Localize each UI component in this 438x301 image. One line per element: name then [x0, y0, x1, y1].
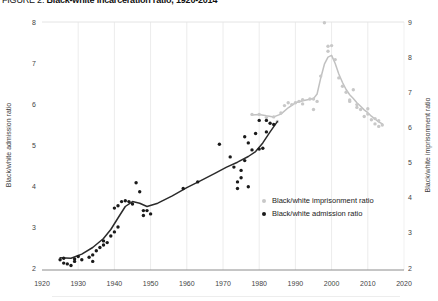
admission-data-point — [116, 204, 119, 207]
legend-label-admission: Black/white admission ratio — [272, 209, 362, 218]
admission-data-point — [149, 212, 152, 215]
admission-data-point — [268, 122, 271, 125]
right-y-axis-title: Black/white imprisonment ratio — [424, 97, 432, 192]
legend: Black/white imprisonment ratio Black/whi… — [256, 194, 374, 220]
imprisonment-data-point — [279, 111, 282, 114]
imprisonment-data-point — [301, 102, 304, 105]
admission-data-point — [138, 190, 141, 193]
imprisonment-data-point — [334, 58, 337, 61]
imprisonment-data-point — [363, 115, 366, 118]
imprisonment-data-point — [377, 119, 380, 122]
x-tick-label: 1920 — [34, 280, 50, 287]
imprisonment-data-point — [258, 113, 261, 116]
figure-container: FIGURE 2: Black-white incarceration rati… — [0, 0, 438, 301]
imprisonment-data-point — [319, 74, 322, 77]
x-tick-label: 1960 — [179, 280, 195, 287]
axis-ticks: 1920193019401950196019701980199020002010… — [32, 19, 412, 288]
right-y-tick-label: 7 — [408, 89, 412, 96]
gridlines — [42, 22, 404, 270]
x-tick-label: 1970 — [215, 280, 231, 287]
admission-data-point — [236, 180, 239, 183]
imprisonment-data-point — [377, 125, 380, 128]
imprisonment-data-point — [344, 91, 347, 94]
right-y-tick-label: 8 — [408, 54, 412, 61]
x-tick-label: 2010 — [360, 280, 376, 287]
admission-trend-line — [60, 122, 277, 259]
admission-data-point — [261, 147, 264, 150]
legend-item-admission: Black/white admission ratio — [256, 207, 374, 220]
imprisonment-data-point — [326, 45, 329, 48]
imprisonment-data-point — [297, 100, 300, 103]
left-y-tick-label: 3 — [32, 224, 36, 231]
admission-data-point — [127, 200, 130, 203]
admission-data-point — [247, 141, 250, 144]
admission-data-point — [131, 202, 134, 205]
admission-data-point — [247, 185, 250, 188]
imprisonment-data-point — [326, 50, 329, 53]
admission-data-point — [218, 143, 221, 146]
gray-dot-icon — [262, 199, 266, 203]
x-tick-label: 2020 — [396, 280, 412, 287]
admission-data-point — [87, 256, 90, 259]
right-y-tick-label: 9 — [408, 19, 412, 26]
imprisonment-data-point — [287, 101, 290, 104]
right-y-tick-label: 6 — [408, 124, 412, 131]
left-y-tick-label: 2 — [32, 265, 36, 272]
admission-data-point — [196, 180, 199, 183]
imprisonment-data-point — [373, 117, 376, 120]
admission-data-point — [145, 209, 148, 212]
x-tick-label: 1940 — [107, 280, 123, 287]
admission-data-point — [142, 209, 145, 212]
x-tick-label: 1990 — [288, 280, 304, 287]
imprisonment-data-point — [323, 21, 326, 24]
left-y-tick-label: 6 — [32, 101, 36, 108]
imprisonment-data-point — [359, 108, 362, 111]
x-tick-label: 1980 — [251, 280, 267, 287]
imprisonment-data-point — [341, 85, 344, 88]
admission-data-point — [66, 262, 69, 265]
incarceration-ratio-chart: 1920193019401950196019701980199020002010… — [0, 0, 438, 301]
admission-data-point — [98, 246, 101, 249]
legend-label-imprisonment: Black/white imprisonment ratio — [272, 196, 374, 205]
admission-data-point — [113, 206, 116, 209]
imprisonment-data-point — [352, 88, 355, 91]
admission-data-point — [69, 264, 72, 267]
imprisonment-data-point — [366, 112, 369, 115]
admission-data-point — [232, 165, 235, 168]
black-dot-icon — [262, 212, 266, 216]
left-y-tick-label: 4 — [32, 183, 36, 190]
admission-data-point — [229, 155, 232, 158]
admission-data-point — [254, 132, 257, 135]
admission-data-point — [62, 261, 65, 264]
admission-data-point — [265, 119, 268, 122]
admission-data-point — [182, 187, 185, 190]
admission-data-point — [102, 239, 105, 242]
imprisonment-data-point — [373, 122, 376, 125]
imprisonment-data-point — [312, 97, 315, 100]
admission-data-point — [95, 249, 98, 252]
right-y-tick-label: 2 — [408, 265, 412, 272]
admission-data-point — [58, 258, 61, 261]
imprisonment-data-point — [301, 98, 304, 101]
admission-data-point — [124, 199, 127, 202]
admission-data-point — [258, 147, 261, 150]
right-y-tick-label: 3 — [408, 229, 412, 236]
imprisonment-data-point — [315, 100, 318, 103]
imprisonment-data-point — [283, 104, 286, 107]
left-y-axis-title: Black/white admission ratio — [5, 103, 12, 188]
imprisonment-data-point — [330, 44, 333, 47]
admission-data-point — [236, 187, 239, 190]
admission-data-point — [142, 214, 145, 217]
imprisonment-data-point — [348, 98, 351, 101]
imprisonment-data-point — [308, 97, 311, 100]
imprisonment-data-point — [381, 123, 384, 126]
admission-data-point — [120, 200, 123, 203]
cropped-bottom-rule — [52, 296, 400, 297]
admission-data-point — [91, 253, 94, 256]
imprisonment-data-point — [250, 113, 253, 116]
data-series — [58, 21, 384, 267]
imprisonment-data-point — [355, 103, 358, 106]
imprisonment-data-point — [366, 107, 369, 110]
admission-data-point — [91, 260, 94, 263]
imprisonment-data-point — [370, 118, 373, 121]
